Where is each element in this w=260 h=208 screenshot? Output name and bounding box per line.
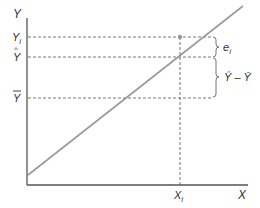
y-axis-label: Y bbox=[13, 7, 22, 21]
yi-label: Yi bbox=[12, 31, 21, 46]
yhat-label: Y ^ bbox=[13, 45, 21, 63]
hat-accent: ^ bbox=[14, 45, 18, 54]
svg-text:Y: Y bbox=[13, 92, 21, 104]
observed-point bbox=[178, 35, 182, 39]
x-axis-label: X bbox=[237, 188, 247, 202]
ybar-label: Y bbox=[13, 91, 21, 104]
regression-diagram: Y X Yi Y ^ Y Xi ei Ŷ – Ȳ bbox=[0, 0, 260, 208]
residual-brace bbox=[213, 37, 219, 57]
explained-brace bbox=[213, 58, 219, 97]
regression-line bbox=[28, 6, 243, 175]
residual-label: ei bbox=[223, 41, 231, 56]
svg-text:Yi: Yi bbox=[12, 31, 21, 46]
xi-label: Xi bbox=[173, 189, 183, 204]
explained-label: Ŷ – Ȳ bbox=[224, 71, 252, 83]
